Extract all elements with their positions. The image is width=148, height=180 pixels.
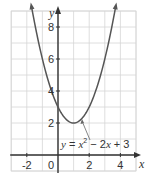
curve-arrow-icon xyxy=(113,2,118,9)
x-tick-label: 2 xyxy=(86,159,92,171)
y-tick-label: 4 xyxy=(48,85,54,97)
y-tick-label: 8 xyxy=(48,21,54,33)
equation-eq: = xyxy=(66,138,79,150)
y-axis-label: y xyxy=(48,6,55,20)
y-axis-arrow-icon xyxy=(55,6,61,14)
equation-label: y = x2 − 2x + 3 xyxy=(60,137,129,150)
x-tick-label: 4 xyxy=(117,159,123,171)
y-tick-label: 6 xyxy=(48,53,54,65)
parabola-graph: 2468-2024 y x y = x2 − 2x + 3 xyxy=(0,0,148,180)
x-tick-label: 0 xyxy=(48,159,54,171)
x-tick-label: -2 xyxy=(22,159,32,171)
curve-arrow-icon xyxy=(30,2,35,9)
x-axis-label: x xyxy=(138,157,145,171)
y-tick-label: 2 xyxy=(48,117,54,129)
equation-rest: − 2 xyxy=(87,138,106,150)
equation-tail: + 3 xyxy=(111,138,130,150)
